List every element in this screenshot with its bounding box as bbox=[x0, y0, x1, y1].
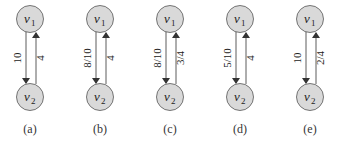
panel-e: v 1 v 2 10 2/4 (e) bbox=[275, 0, 338, 142]
node-v2-subscript: 2 bbox=[101, 96, 106, 106]
panel-caption: (e) bbox=[275, 122, 338, 137]
edge-up-label: 4 bbox=[104, 55, 116, 61]
node-v1: v 1 bbox=[227, 6, 254, 33]
node-v1-label: v bbox=[234, 11, 240, 26]
edge-down-label: 5/10 bbox=[221, 48, 233, 68]
edge-down-label: 8/10 bbox=[81, 48, 93, 68]
node-v1: v 1 bbox=[17, 6, 44, 33]
flow-network-diagram: v 1 v 2 10 4 (a) v 1 bbox=[0, 0, 338, 142]
node-v2: v 2 bbox=[17, 84, 44, 111]
node-v2: v 2 bbox=[87, 84, 114, 111]
node-v1-subscript: 1 bbox=[241, 18, 246, 28]
node-v1: v 1 bbox=[297, 6, 324, 33]
node-v2-subscript: 2 bbox=[171, 96, 176, 106]
panel-caption: (b) bbox=[65, 122, 135, 137]
node-v1: v 1 bbox=[87, 6, 114, 33]
edge-down-label: 10 bbox=[11, 52, 23, 64]
edge-up-label: 4 bbox=[34, 55, 46, 61]
node-v1-subscript: 1 bbox=[171, 18, 176, 28]
panel-a: v 1 v 2 10 4 (a) bbox=[0, 0, 65, 142]
node-v1-label: v bbox=[24, 11, 30, 26]
edge-down-label: 8/10 bbox=[151, 48, 163, 68]
panel-caption: (c) bbox=[135, 122, 205, 137]
node-v2: v 2 bbox=[297, 84, 324, 111]
node-v1-subscript: 1 bbox=[311, 18, 316, 28]
node-v2-label: v bbox=[24, 89, 30, 104]
node-v1-label: v bbox=[304, 11, 310, 26]
node-v2-label: v bbox=[94, 89, 100, 104]
node-v1-label: v bbox=[164, 11, 170, 26]
node-v2-label: v bbox=[234, 89, 240, 104]
panel-caption: (a) bbox=[0, 122, 65, 137]
edge-up-label: 3/4 bbox=[174, 50, 186, 65]
node-v2-subscript: 2 bbox=[241, 96, 246, 106]
node-v1-label: v bbox=[94, 11, 100, 26]
node-v2-label: v bbox=[164, 89, 170, 104]
node-v2-subscript: 2 bbox=[311, 96, 316, 106]
node-v2: v 2 bbox=[157, 84, 184, 111]
panel-d: v 1 v 2 5/10 4 (d) bbox=[205, 0, 275, 142]
node-v2-subscript: 2 bbox=[31, 96, 36, 106]
node-v1-subscript: 1 bbox=[31, 18, 36, 28]
edge-up-label: 4 bbox=[244, 55, 256, 61]
panel-caption: (d) bbox=[205, 122, 275, 137]
node-v1-subscript: 1 bbox=[101, 18, 106, 28]
edge-down-label: 10 bbox=[291, 52, 303, 64]
node-v1: v 1 bbox=[157, 6, 184, 33]
panel-c: v 1 v 2 8/10 3/4 (c) bbox=[135, 0, 205, 142]
panel-b: v 1 v 2 8/10 4 (b) bbox=[65, 0, 135, 142]
node-v2: v 2 bbox=[227, 84, 254, 111]
node-v2-label: v bbox=[304, 89, 310, 104]
edge-up-label: 2/4 bbox=[314, 50, 326, 65]
